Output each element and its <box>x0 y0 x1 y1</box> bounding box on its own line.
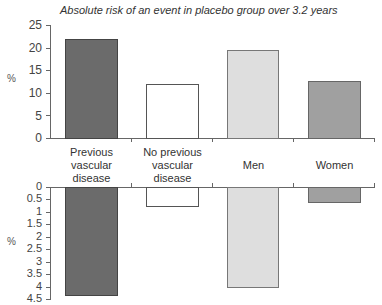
top-bar-no-previous-vascular-disease <box>147 85 199 139</box>
category-label-line: No previous <box>132 146 213 159</box>
category-label-line: vascular <box>51 159 132 172</box>
top-bar-men <box>228 51 279 139</box>
category-label-no-previous-vascular-disease: No previous vascular disease <box>132 146 213 185</box>
category-label-previous-vascular-disease: Previous vascular disease <box>51 146 132 185</box>
category-label-line: Previous <box>51 146 132 159</box>
category-label-line: vascular <box>132 159 213 172</box>
bottom-bar-previous-vascular-disease <box>66 188 118 296</box>
category-label-men: Men <box>213 159 294 172</box>
category-label-line: disease <box>132 172 213 185</box>
top-bar-previous-vascular-disease <box>66 40 118 139</box>
category-label-line: disease <box>51 172 132 185</box>
bottom-bar-women <box>309 188 361 203</box>
bottom-bar-no-previous-vascular-disease <box>147 188 199 207</box>
category-label-women: Women <box>294 159 375 172</box>
bottom-bar-men <box>228 188 279 288</box>
top-bar-women <box>309 82 361 139</box>
